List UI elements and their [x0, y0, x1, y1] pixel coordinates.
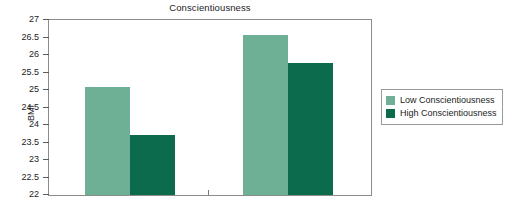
y-tick-mark — [43, 72, 49, 73]
y-tick-mark — [43, 159, 49, 160]
y-tick-label: 23.5 — [0, 137, 39, 147]
y-tick-mark — [43, 19, 49, 20]
legend-item-label: High Conscientiousness — [400, 108, 497, 119]
y-tick-mark — [43, 89, 49, 90]
bar — [130, 135, 175, 195]
legend-item[interactable]: High Conscientiousness — [386, 107, 497, 120]
y-tick-label: 25 — [0, 84, 39, 94]
y-tick-label: 24 — [0, 119, 39, 129]
y-tick-label: 22.5 — [0, 172, 39, 182]
y-tick-label: 26 — [0, 49, 39, 59]
y-tick-mark — [43, 37, 49, 38]
y-tick-label: 26.5 — [0, 32, 39, 42]
chart-figure: Conscientiousness BMI 2726.52625.52524.5… — [0, 0, 516, 219]
y-tick-mark — [43, 107, 49, 108]
bar — [85, 87, 130, 196]
legend-swatch-icon — [386, 109, 395, 118]
y-tick-label: 24.5 — [0, 102, 39, 112]
legend-item-label: Low Conscientiousness — [400, 95, 495, 106]
y-tick-label: 25.5 — [0, 67, 39, 77]
y-tick-label: 22 — [0, 189, 39, 199]
chart-legend: Low ConscientiousnessHigh Conscientiousn… — [381, 89, 503, 125]
x-tick-mark — [208, 190, 209, 195]
y-tick-label: 27 — [0, 14, 39, 24]
bar — [288, 63, 333, 195]
y-tick-mark — [43, 54, 49, 55]
y-tick-mark — [43, 194, 49, 195]
y-tick-label: 23 — [0, 154, 39, 164]
legend-item[interactable]: Low Conscientiousness — [386, 94, 497, 107]
chart-title: Conscientiousness — [48, 2, 372, 13]
plot-area: BMI 2726.52625.52524.52423.52322.522 Fem… — [49, 20, 371, 195]
y-tick-mark — [43, 124, 49, 125]
y-tick-mark — [43, 142, 49, 143]
legend-swatch-icon — [386, 96, 395, 105]
y-tick-mark — [43, 177, 49, 178]
bar — [243, 35, 288, 195]
